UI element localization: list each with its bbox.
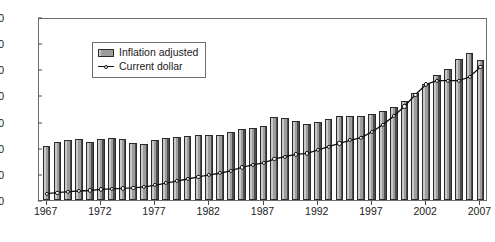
y-tick-mark (38, 18, 42, 19)
current-dollar-polyline (47, 67, 481, 194)
x-tick-label: 1987 (251, 206, 274, 217)
y-tick-mark (38, 148, 42, 149)
y-tick-mark (38, 122, 42, 123)
x-tick-mark (425, 201, 426, 205)
y-tick-mark (38, 174, 42, 175)
x-tick-label: 2007 (468, 206, 491, 217)
x-tick-mark (100, 201, 101, 205)
y-tick-mark (38, 96, 42, 97)
x-tick-mark (371, 201, 372, 205)
y-tick-label: 350 (0, 13, 4, 24)
y-tick-label: 0 (0, 196, 4, 207)
y-tick-mark (38, 201, 42, 202)
x-tick-label: 1982 (197, 206, 220, 217)
x-tick-mark (46, 201, 47, 205)
y-tick-label: 150 (0, 117, 4, 128)
x-tick-label: 1997 (359, 206, 382, 217)
x-tick-label: 1977 (142, 206, 165, 217)
y-tick-mark (38, 70, 42, 71)
y-tick-label: 250 (0, 65, 4, 76)
y-tick-label: 100 (0, 143, 4, 154)
x-tick-label: 1972 (88, 206, 111, 217)
plot-area: Inflation adjusted Current dollar (38, 18, 487, 201)
legend: Inflation adjusted Current dollar (92, 42, 206, 78)
x-tick-mark (263, 201, 264, 205)
y-tick-mark (38, 44, 42, 45)
legend-label-inflation-adjusted: Inflation adjusted (119, 47, 198, 58)
y-tick-label: 300 (0, 39, 4, 50)
legend-item-current-dollar: Current dollar (98, 60, 198, 73)
y-axis: 050100150200250300350 (0, 0, 38, 242)
y-tick-label: 50 (0, 170, 4, 181)
chart-figure: 050100150200250300350 Inflation adjusted… (0, 0, 495, 242)
line-marker-swatch-icon (98, 63, 114, 71)
legend-item-inflation-adjusted: Inflation adjusted (98, 46, 198, 59)
bar-swatch-icon (98, 49, 114, 57)
legend-label-current-dollar: Current dollar (119, 61, 183, 72)
x-tick-label: 2002 (413, 206, 436, 217)
x-tick-label: 1967 (34, 206, 57, 217)
x-tick-label: 1992 (305, 206, 328, 217)
x-tick-mark (154, 201, 155, 205)
x-tick-mark (479, 201, 480, 205)
y-tick-label: 200 (0, 91, 4, 102)
x-tick-mark (208, 201, 209, 205)
x-tick-mark (317, 201, 318, 205)
